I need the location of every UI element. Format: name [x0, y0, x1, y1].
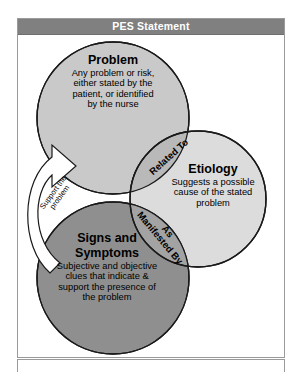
page-title: PES Statement — [112, 21, 189, 32]
etiology-body-line-2: cause of the stated — [148, 187, 278, 197]
problem-body-line-1: Any problem or risk, — [43, 68, 183, 78]
etiology-body-line-3: problem — [148, 198, 278, 208]
problem-body-line-3: patient, or identified — [43, 89, 183, 99]
signs-heading-line-2: Symptoms — [32, 246, 182, 260]
label-etiology: Etiology Suggests a possible cause of th… — [148, 162, 278, 208]
problem-body-line-2: either stated by the — [43, 78, 183, 88]
signs-body-line-2: clues that indicate & — [32, 271, 182, 281]
signs-body-line-3: support the presence of — [32, 282, 182, 292]
venn-diagram: Problem Any problem or risk, either stat… — [18, 35, 284, 357]
problem-heading: Problem — [43, 53, 183, 67]
signs-body-line-4: the problem — [32, 292, 182, 302]
label-problem: Problem Any problem or risk, either stat… — [43, 53, 183, 110]
figure-frame: PES Statement — [17, 18, 285, 358]
figure-page: PES Statement — [0, 0, 302, 372]
figure-title-bar: PES Statement — [18, 19, 284, 35]
problem-body-line-4: by the nurse — [43, 99, 183, 109]
etiology-body-line-1: Suggests a possible — [148, 177, 278, 187]
figure-bottom-strip — [17, 359, 285, 372]
signs-body-line-1: Subjective and objective — [32, 261, 182, 271]
